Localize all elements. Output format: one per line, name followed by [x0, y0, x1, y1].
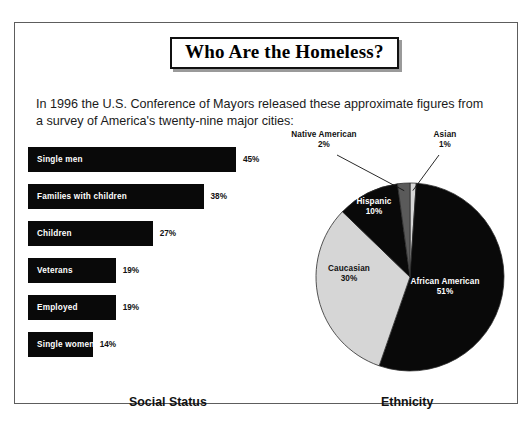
bar-value-label: 27%	[160, 221, 176, 246]
bar-row: Single women14%	[28, 332, 268, 357]
bar-value-label: 14%	[100, 332, 116, 357]
pie-slice-name: Asian	[385, 130, 505, 140]
bar-row: Families with children38%	[28, 184, 268, 209]
bar-row: Employed19%	[28, 295, 268, 320]
bar-category-label: Single men	[37, 147, 83, 172]
pie-slice-label: Caucasian30%	[289, 264, 409, 285]
pie-slice-name: Caucasian	[289, 264, 409, 274]
bar-category-label: Families with children	[37, 184, 127, 209]
social-status-bar-chart: Single men45%Families with children38%Ch…	[15, 141, 270, 366]
bar-category-label: Children	[37, 221, 72, 246]
bar-value-label: 38%	[211, 184, 227, 209]
bar-value-label: 45%	[243, 147, 259, 172]
pie-leader-line	[337, 155, 404, 191]
headline-box: Who Are the Homeless?	[170, 37, 399, 69]
bar-row: Single men45%	[28, 147, 268, 172]
pie-slice-value: 51%	[385, 287, 505, 297]
bar-category-label: Single women	[37, 332, 94, 357]
pie-slice-value: 1%	[385, 140, 505, 150]
pie-slice-name: Native American	[264, 130, 384, 140]
pie-slice-label: Native American2%	[264, 130, 384, 151]
bar-value-label: 19%	[123, 258, 139, 283]
chart-caption-social-status: Social Status	[129, 395, 207, 409]
bar-value-label: 19%	[123, 295, 139, 320]
pie-svg	[277, 123, 531, 383]
chart-caption-ethnicity: Ethnicity	[381, 395, 433, 409]
bar-category-label: Employed	[37, 295, 78, 320]
pie-slice-value: 10%	[314, 207, 434, 217]
pie-slice-name: Hispanic	[314, 197, 434, 207]
ethnicity-pie-chart: Asian1%African American51%Caucasian30%Hi…	[277, 123, 531, 383]
pie-slice-label: Hispanic10%	[314, 197, 434, 218]
bar-row: Veterans19%	[28, 258, 268, 283]
document-frame: Who Are the Homeless? In 1996 the U.S. C…	[14, 22, 518, 404]
page-title: Who Are the Homeless?	[185, 41, 384, 63]
pie-slice-value: 30%	[289, 274, 409, 284]
bar-category-label: Veterans	[37, 258, 73, 283]
pie-slice-value: 2%	[264, 140, 384, 150]
bar-row: Children27%	[28, 221, 268, 246]
pie-slice-label: Asian1%	[385, 130, 505, 151]
